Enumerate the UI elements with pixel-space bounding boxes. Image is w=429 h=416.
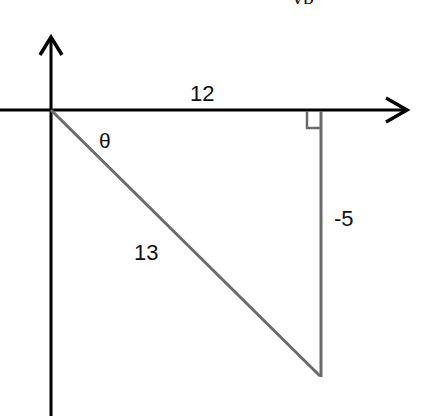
right-angle-marker-icon bbox=[307, 111, 321, 128]
angle-label: θ bbox=[99, 130, 111, 151]
triangle-diagram bbox=[0, 0, 429, 416]
hypotenuse-label: 13 bbox=[134, 242, 158, 264]
hypotenuse-line bbox=[51, 110, 320, 376]
opposite-label: -5 bbox=[334, 208, 354, 230]
adjacent-label: 12 bbox=[190, 83, 214, 105]
